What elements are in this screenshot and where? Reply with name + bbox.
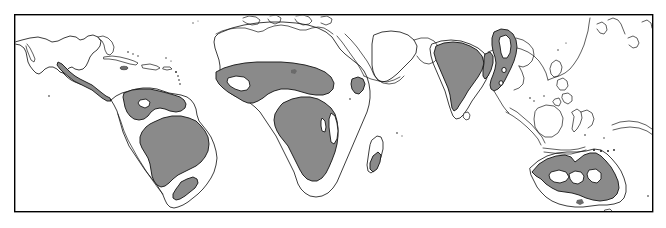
map-speck <box>557 49 558 50</box>
map-speck <box>192 22 194 24</box>
island-sunda <box>613 149 615 151</box>
world-distribution-map-figure <box>0 0 666 228</box>
range-hole-malay-1 <box>502 67 506 72</box>
island-jamaica <box>120 66 128 70</box>
island-bahamas <box>127 51 129 53</box>
map-speck <box>584 134 586 136</box>
island-atlantic-islet <box>170 60 171 61</box>
map-speck <box>48 95 50 97</box>
island-lesser-antilles <box>178 79 180 81</box>
map-speck <box>529 97 531 99</box>
island-sunda <box>607 150 609 152</box>
map-speck <box>401 135 402 136</box>
island-bahamas <box>137 55 138 56</box>
range-hole-malay-2 <box>499 81 503 86</box>
world-map-canvas <box>0 0 666 228</box>
island-atlantic-islet <box>165 57 166 58</box>
range-hole-australia-west <box>549 170 569 183</box>
map-speck <box>396 132 398 134</box>
island-lesser-antilles <box>175 71 177 73</box>
map-speck <box>197 20 198 21</box>
map-speck <box>543 95 544 96</box>
island-lesser-antilles <box>179 83 181 85</box>
map-speck <box>533 100 534 101</box>
map-speck <box>603 137 604 138</box>
island-bahamas <box>132 53 133 54</box>
map-speck <box>565 42 566 43</box>
island-lesser-antilles <box>177 75 179 77</box>
map-speck <box>647 195 649 197</box>
map-speck <box>349 98 351 100</box>
